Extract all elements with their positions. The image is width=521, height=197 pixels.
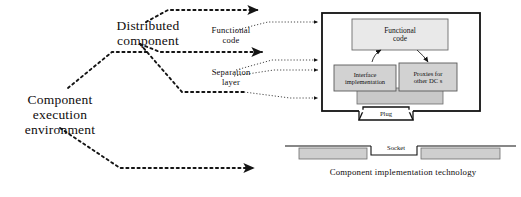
plug-shape xyxy=(359,107,413,120)
label-distributed-component: Distributed component xyxy=(96,18,200,48)
arrow-cee-upper xyxy=(68,52,150,88)
proxies-box xyxy=(399,63,457,91)
platform-bar-right xyxy=(421,148,500,159)
functional-code-box xyxy=(352,19,448,50)
caption-component-implementation-technology: Component implementation technology xyxy=(285,168,521,178)
platform-bar-left xyxy=(299,148,367,159)
socket-notch xyxy=(371,146,417,155)
label-separation-layer-callout: Separation layer xyxy=(196,68,266,87)
label-component-execution-environment: Component execution environment xyxy=(6,92,114,137)
interface-implementation-box xyxy=(334,65,396,91)
arrow-lower-rail-to-box xyxy=(244,92,318,98)
label-functional-code-callout: Functional code xyxy=(196,26,266,45)
diagram-canvas: Distributed component Component executio… xyxy=(0,0,521,197)
